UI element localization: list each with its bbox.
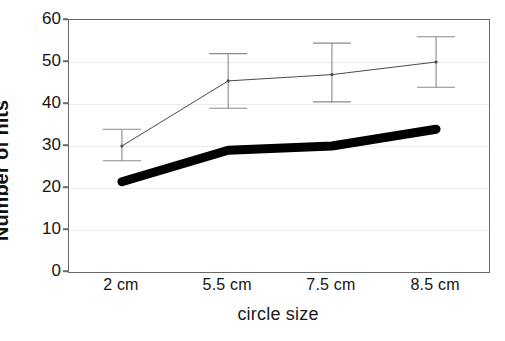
chart-figure: Number of hits 0102030405060 2 cm5.5 cm7… bbox=[0, 0, 505, 341]
x-tick-label: 2 cm bbox=[103, 276, 138, 294]
y-tick-label: 50 bbox=[8, 51, 68, 71]
y-tick-label: 0 bbox=[8, 261, 68, 281]
y-axis-ticks: 0102030405060 bbox=[0, 19, 68, 271]
data-point bbox=[330, 73, 333, 76]
series-thick-line bbox=[122, 129, 436, 182]
data-point bbox=[434, 60, 437, 63]
y-tick-label: 30 bbox=[8, 135, 68, 155]
x-tick-label: 7.5 cm bbox=[306, 276, 355, 294]
x-tick-label: 8.5 cm bbox=[410, 276, 459, 294]
x-tick-label: 5.5 cm bbox=[203, 276, 252, 294]
series-thin-line-with-error-bars bbox=[103, 37, 455, 161]
data-point bbox=[120, 144, 123, 147]
y-tick-label: 40 bbox=[8, 93, 68, 113]
x-axis-ticks: 2 cm5.5 cm7.5 cm8.5 cm bbox=[68, 276, 488, 300]
y-tick-label: 60 bbox=[8, 9, 68, 29]
data-point bbox=[227, 79, 230, 82]
series-line bbox=[122, 129, 436, 182]
y-tick-label: 10 bbox=[8, 219, 68, 239]
x-axis-title: circle size bbox=[68, 304, 488, 325]
y-tick-label: 20 bbox=[8, 177, 68, 197]
data-series-layer bbox=[69, 20, 489, 272]
plot-area bbox=[68, 19, 490, 273]
